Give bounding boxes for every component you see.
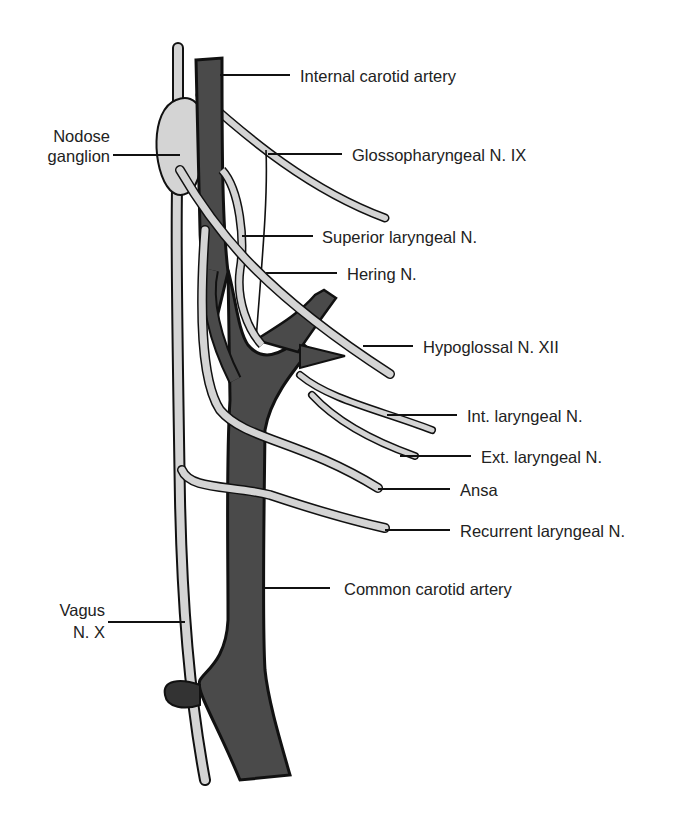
label-ansa: Ansa	[460, 480, 498, 500]
label-recurrent-laryngeal: Recurrent laryngeal N.	[460, 521, 625, 541]
label-int-laryngeal: Int. laryngeal N.	[467, 406, 583, 426]
label-glossopharyngeal: Glossopharyngeal N. IX	[352, 145, 526, 165]
carotid-anatomy-diagram: Internal carotid artery Nodose ganglion …	[0, 0, 691, 814]
label-hypoglossal: Hypoglossal N. XII	[423, 337, 559, 357]
label-vagus-line2: N. X	[40, 622, 105, 642]
external-carotid-artery	[256, 290, 336, 352]
nodose-ganglion	[156, 98, 200, 195]
label-nodose-line1: Nodose	[52, 126, 110, 146]
label-vagus-line1: Vagus	[40, 600, 105, 620]
label-superior-laryngeal: Superior laryngeal N.	[322, 227, 477, 247]
anatomy-illustration	[0, 0, 691, 814]
label-common-carotid-artery: Common carotid artery	[344, 579, 512, 599]
label-ext-laryngeal: Ext. laryngeal N.	[481, 447, 602, 467]
label-hering: Hering N.	[347, 264, 417, 284]
hering-nerve	[256, 150, 266, 340]
label-nodose-line2: ganglion	[46, 146, 110, 166]
label-internal-carotid-artery: Internal carotid artery	[300, 66, 456, 86]
